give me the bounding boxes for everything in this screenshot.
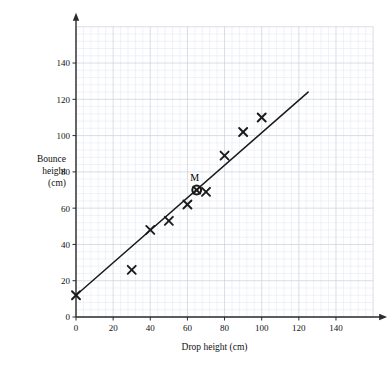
y-axis-tick-label: 140 [57,58,71,68]
x-axis-tick-label: 120 [292,323,306,333]
chart-canvas: 020406080100120140 020406080100120140 M … [0,0,391,367]
y-axis-title-line-1: Bounce [37,154,66,164]
x-axis-title: Drop height (cm) [182,342,248,353]
y-axis-tick-label: 100 [57,131,71,141]
x-axis-tick-label: 40 [146,323,156,333]
x-axis-title-text: Drop height (cm) [182,342,248,353]
y-axis-title-line-2: height [42,166,66,176]
y-axis-tick-label: 0 [66,312,71,322]
x-axis-tick-label: 0 [74,323,79,333]
y-axis-tick-label: 20 [61,276,71,286]
y-axis-tick-label: 120 [57,95,71,105]
y-axis-title-line-3: (cm) [48,178,66,189]
x-axis-tick-label: 80 [220,323,230,333]
y-axis-tick-label: 40 [61,240,71,250]
x-axis-tick-label: 60 [183,323,193,333]
mean-point-label: M [190,172,199,183]
x-axis-tick-label: 140 [329,323,343,333]
y-axis-tick-label: 60 [61,204,71,214]
scatter-chart: 020406080100120140 020406080100120140 M … [0,0,391,367]
x-axis-tick-label: 20 [109,323,119,333]
x-axis-tick-label: 100 [255,323,269,333]
